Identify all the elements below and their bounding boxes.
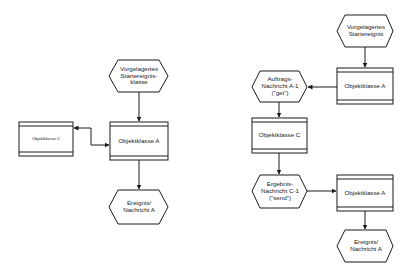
- right-start-event-label: Vorgelagertes Startereignis: [339, 15, 393, 47]
- left-end-event-label: Ereignis/ Nachricht A: [111, 190, 167, 224]
- left-class-c-label: Objektklasse C: [19, 126, 73, 152]
- right-class-c-label: Objektklasse C: [252, 122, 307, 149]
- right-end-event-label: Ereignis/ Nachricht A: [339, 230, 393, 262]
- right-class-a-top-label: Objektklasse A: [337, 72, 393, 100]
- right-class-a-bottom-label: Objektklasse A: [337, 179, 393, 207]
- right-request-message-label: Auftrags- Nachricht A-1 ("get"): [254, 71, 306, 102]
- left-start-event-label: Vorgelagertes Startereignis- klasse: [111, 60, 167, 92]
- left-class-a-label: Objektklasse A: [110, 126, 168, 156]
- left-bidirectional-connector: [74, 128, 109, 145]
- right-result-message-label: Ergebnis- Nachricht C-1 ("send"): [254, 175, 306, 208]
